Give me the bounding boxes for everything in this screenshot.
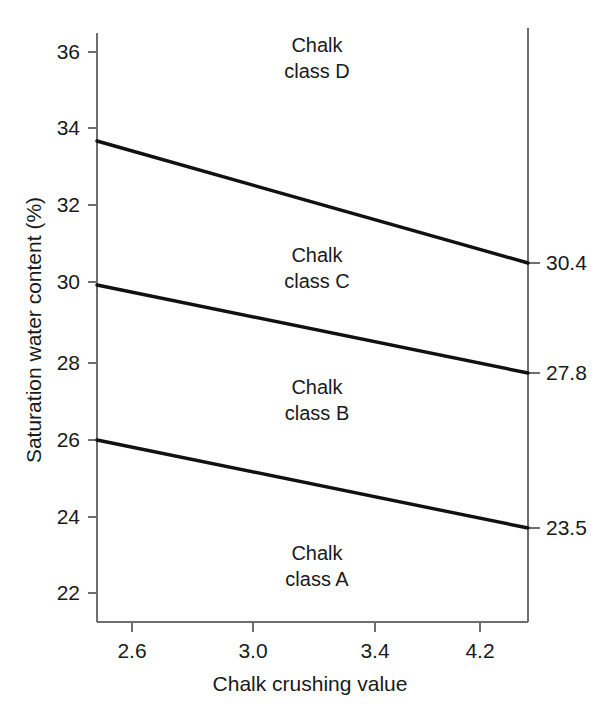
annotation-class-b-line2: class B xyxy=(285,401,349,427)
end-label-23-5: 23.5 xyxy=(546,516,587,540)
annotation-class-a-line1: Chalk xyxy=(285,541,348,567)
plot-area xyxy=(0,0,606,713)
xtick-label-3-0: 3.0 xyxy=(238,639,267,663)
end-label-30-4: 30.4 xyxy=(546,251,587,275)
annotation-class-b-line1: Chalk xyxy=(285,375,349,401)
series-line-bc xyxy=(97,285,528,373)
ytick-label-34: 34 xyxy=(28,116,80,140)
annotation-class-a-line2: class A xyxy=(285,567,348,593)
ytick-label-22: 22 xyxy=(28,581,80,605)
x-axis-ticks xyxy=(132,622,480,632)
xtick-label-2-6: 2.6 xyxy=(117,639,146,663)
annotation-class-d-line2: class D xyxy=(284,59,350,85)
y-axis-title: Saturation water content (%) xyxy=(22,180,46,480)
xtick-label-3-4: 3.4 xyxy=(360,639,389,663)
ytick-label-24: 24 xyxy=(28,505,80,529)
xtick-label-4-2: 4.2 xyxy=(465,639,494,663)
series-line-ab xyxy=(97,440,528,528)
end-label-27-8: 27.8 xyxy=(546,361,587,385)
y-axis-ticks xyxy=(88,52,97,593)
annotation-class-c-line1: Chalk xyxy=(284,243,350,269)
right-axis-value-ticks xyxy=(528,263,540,528)
ytick-label-36: 36 xyxy=(28,40,80,64)
annotation-class-b: Chalk class B xyxy=(285,375,349,426)
annotation-class-d-line1: Chalk xyxy=(284,33,350,59)
chart-figure: 36 34 32 30 28 26 24 22 2.6 3.0 3.4 4.2 … xyxy=(0,0,606,713)
annotation-class-d: Chalk class D xyxy=(284,33,350,84)
annotation-class-c-line2: class C xyxy=(284,269,350,295)
annotation-class-c: Chalk class C xyxy=(284,243,350,294)
annotation-class-a: Chalk class A xyxy=(285,541,348,592)
x-axis-title: Chalk crushing value xyxy=(213,672,408,696)
